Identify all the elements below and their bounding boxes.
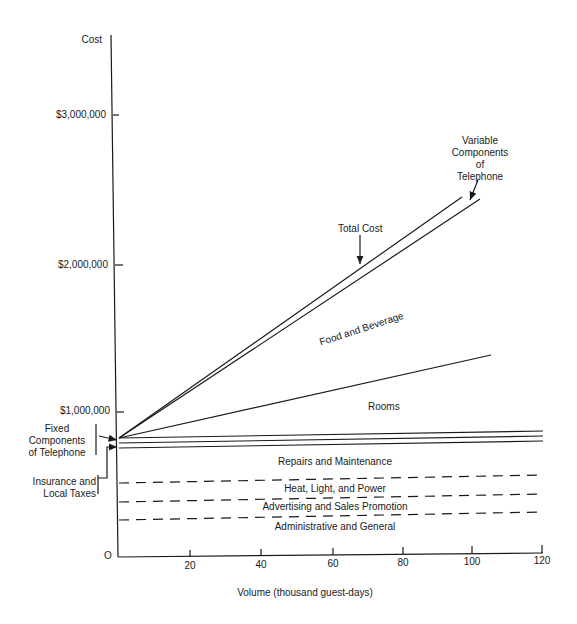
y-tick-label-2m: $2,000,000 <box>20 259 108 271</box>
total-cost-label: Total Cost <box>338 223 382 235</box>
fixed-telephone-line3: of Telephone <box>20 447 94 459</box>
advertising-label: Advertising and Sales Promotion <box>240 501 430 513</box>
variable-telephone-line4: Telephone <box>440 171 520 183</box>
x-tick-label-80: 80 <box>391 557 415 569</box>
insurance-line2: Local Taxes <box>20 488 96 500</box>
variable-telephone-line2: Components <box>440 147 520 159</box>
y-tick-label-3m: $3,000,000 <box>20 109 106 121</box>
heat-light-power-label: Heat, Light, and Power <box>250 483 420 495</box>
rooms-label: Rooms <box>368 401 400 413</box>
line-total-cost <box>119 197 462 438</box>
line-food-beverage <box>119 199 480 438</box>
fixed-telephone-line2: Components <box>20 435 94 447</box>
variable-telephone-line1: Variable <box>440 135 520 147</box>
x-tick-label-120: 120 <box>528 555 556 567</box>
x-tick-label-20: 20 <box>178 560 202 572</box>
admin-general-label: Administrative and General <box>240 521 430 533</box>
line-admin-general <box>119 512 543 520</box>
bracket-insurance <box>98 447 117 478</box>
line-rooms <box>119 355 491 438</box>
y-axis-title: Cost <box>60 34 102 46</box>
fixed-telephone-label: Fixed Components of Telephone <box>20 423 94 459</box>
x-tick-label-40: 40 <box>249 559 273 571</box>
insurance-taxes-label: Insurance and Local Taxes <box>20 476 96 500</box>
line-heat-light-power <box>119 475 543 483</box>
insurance-line1: Insurance and <box>20 476 96 488</box>
x-tick-label-100: 100 <box>458 556 486 568</box>
arrow-variable-telephone <box>470 180 478 200</box>
variable-telephone-label: Variable Components of Telephone <box>440 135 520 183</box>
x-tick-label-60: 60 <box>321 558 345 570</box>
y-tick-label-1m: $1,000,000 <box>20 405 110 417</box>
x-axis-title: Volume (thousand guest-days) <box>200 587 410 599</box>
origin-label: O <box>104 550 112 562</box>
fixed-telephone-line1: Fixed <box>20 423 94 435</box>
variable-telephone-line3: of <box>440 159 520 171</box>
y-axis <box>111 35 118 557</box>
repairs-maintenance-label: Repairs and Maintenance <box>250 456 420 468</box>
arrow-fixed-telephone <box>99 436 117 440</box>
